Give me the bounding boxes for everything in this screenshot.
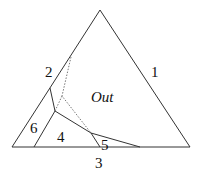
- label-side-3: 3: [95, 155, 103, 171]
- label-region-out: Out: [91, 89, 114, 105]
- boundary-4-out: [55, 111, 140, 147]
- dotted-boundary-lower: [55, 96, 62, 111]
- outer-triangle: [12, 10, 190, 147]
- label-region-4: 4: [57, 129, 65, 145]
- label-side-2: 2: [45, 64, 53, 80]
- label-region-5: 5: [101, 137, 109, 153]
- label-side-1: 1: [151, 64, 159, 80]
- dotted-boundary-upper: [62, 57, 91, 133]
- label-region-6: 6: [30, 120, 38, 136]
- ternary-diagram: 2 1 Out 6 4 5 3: [0, 0, 198, 178]
